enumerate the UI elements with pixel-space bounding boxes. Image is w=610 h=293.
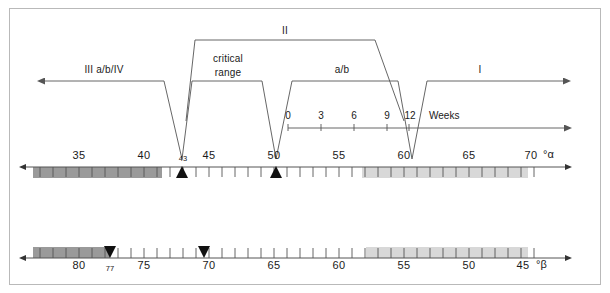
weeks-tick-3: 3 [318,110,324,121]
alpha-label-65: 65 [463,149,476,161]
beta-label-60: 60 [333,259,346,271]
critical-range-descend [262,81,276,159]
weeks-tick-9: 9 [384,110,390,121]
beta-label-45: 45 [517,259,530,271]
beta-label-65: 65 [268,259,281,271]
alpha-marker-43 [176,166,188,178]
alpha-dark-band [33,167,162,178]
alpha-marker-50 [270,166,282,178]
beta-label-77: 77 [106,264,115,273]
figure-container: III a/b/IV critical range II a/b I 0 3 6… [0,0,610,293]
weeks-axis-ticks [288,124,409,131]
beta-scale-group [26,246,566,258]
region-line-III-descend [164,81,182,159]
beta-light-band [366,247,528,258]
critical-range-left-rise [182,81,192,159]
beta-label-70: 70 [203,259,216,271]
beta-unit-label: °β [536,258,547,270]
alpha-label-40: 40 [138,149,151,161]
weeks-axis-label: Weeks [429,110,459,121]
weeks-tick-12: 12 [404,110,415,121]
region-II-left-leg [186,40,195,121]
alpha-unit-label: °α [543,148,554,160]
alpha-scale-group [26,166,566,178]
alpha-label-45: 45 [203,149,216,161]
weeks-tick-0: 0 [285,110,291,121]
diagram-graphics [0,0,610,293]
alpha-label-50: 50 [268,149,281,161]
alpha-label-35: 35 [73,149,86,161]
weeks-tick-6: 6 [351,110,357,121]
region-label-I: I [479,64,482,75]
alpha-label-60: 60 [398,149,411,161]
region-label-II: II [282,25,288,36]
beta-label-75: 75 [138,259,151,271]
alpha-label-70: 70 [525,149,538,161]
region-label-critical-range-line1: critical [213,53,243,64]
alpha-label-55: 55 [333,149,346,161]
alpha-light-band [362,167,528,178]
region-label-III: III a/b/IV [84,64,123,75]
beta-label-55: 55 [398,259,411,271]
region-label-ab: a/b [335,64,350,75]
beta-label-80: 80 [73,259,86,271]
region-label-critical-range-line2: range [215,67,242,78]
beta-dark-band [33,247,110,258]
beta-label-50: 50 [463,259,476,271]
alpha-label-43: 43 [179,154,188,163]
region-II-right-leg [375,40,404,121]
beta-marker-70 [198,246,210,258]
